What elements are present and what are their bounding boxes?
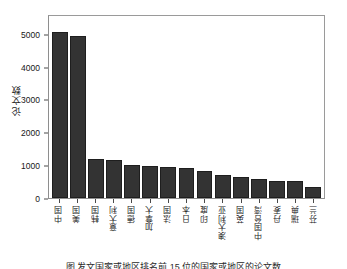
x-tick-mark xyxy=(59,199,60,203)
x-tick-label: 德国 xyxy=(128,206,136,223)
x-tick-mark xyxy=(168,199,169,203)
y-axis-ticks: 010002000300040005000 xyxy=(0,0,48,210)
bar xyxy=(287,181,303,198)
x-tick-mark xyxy=(150,199,151,203)
x-tick: 芬兰 xyxy=(306,199,322,269)
x-tick: 丹麦 xyxy=(270,199,286,269)
x-tick-label: 法国 xyxy=(164,206,172,223)
x-axis-ticks: 中国美国韩国意大利德国加拿大法国日本印度澳大利亚英国中国台湾丹麦瑞典芬兰 xyxy=(48,199,325,269)
x-tick-label: 印度 xyxy=(201,206,209,223)
bar xyxy=(197,171,213,198)
x-tick-mark xyxy=(241,199,242,203)
y-tick-label: 4000 xyxy=(21,63,40,73)
x-tick-label: 意大利 xyxy=(110,206,118,231)
plot-area xyxy=(48,15,325,199)
y-tick-label: 0 xyxy=(35,194,40,204)
bar xyxy=(106,160,122,198)
bar xyxy=(160,167,176,198)
bar xyxy=(269,181,285,198)
x-tick-label: 日本 xyxy=(183,206,191,223)
x-tick-label: 英国 xyxy=(237,206,245,223)
x-tick: 德国 xyxy=(124,199,140,269)
x-tick: 中国 xyxy=(51,199,67,269)
y-tick-label: 3000 xyxy=(21,95,40,105)
x-tick-label: 美国 xyxy=(73,206,81,223)
x-tick: 印度 xyxy=(197,199,213,269)
x-tick-mark xyxy=(277,199,278,203)
y-tick-label: 5000 xyxy=(21,30,40,40)
bar xyxy=(70,36,86,198)
x-tick-label: 中国台湾 xyxy=(255,206,263,240)
y-tick-label: 2000 xyxy=(21,128,40,138)
bar-chart-figure: 论文数 010002000300040005000 中国美国韩国意大利德国加拿大… xyxy=(0,0,347,269)
x-tick-mark xyxy=(131,199,132,203)
bar xyxy=(142,166,158,198)
x-tick-mark xyxy=(295,199,296,203)
x-tick: 美国 xyxy=(69,199,85,269)
x-tick-mark xyxy=(113,199,114,203)
x-tick-label: 韩国 xyxy=(92,206,100,223)
x-tick-label: 瑞典 xyxy=(292,206,300,223)
x-tick-mark xyxy=(259,199,260,203)
bar-series xyxy=(49,16,324,198)
x-tick: 加拿大 xyxy=(142,199,158,269)
x-tick: 意大利 xyxy=(106,199,122,269)
x-tick: 韩国 xyxy=(88,199,104,269)
figure-caption-text: 图 发文国家或地区排名前 15 位的国家或地区的论文数 xyxy=(0,262,347,269)
bar xyxy=(124,165,140,198)
x-tick: 瑞典 xyxy=(288,199,304,269)
figure-caption: 图 发文国家或地区排名前 15 位的国家或地区的论文数 xyxy=(0,262,347,269)
bar xyxy=(52,32,68,198)
bar xyxy=(179,168,195,198)
x-tick-mark xyxy=(313,199,314,203)
bar xyxy=(233,177,249,198)
x-tick-mark xyxy=(95,199,96,203)
x-tick-label: 中国 xyxy=(55,206,63,223)
x-tick-label: 丹麦 xyxy=(274,206,282,223)
bar xyxy=(215,175,231,198)
bar xyxy=(251,179,267,199)
x-tick: 中国台湾 xyxy=(251,199,267,269)
x-tick-mark xyxy=(204,199,205,203)
x-tick-label: 澳大利亚 xyxy=(219,206,227,240)
x-tick-mark xyxy=(222,199,223,203)
x-tick: 澳大利亚 xyxy=(215,199,231,269)
x-tick: 法国 xyxy=(160,199,176,269)
x-tick-label: 芬兰 xyxy=(310,206,318,223)
x-tick: 英国 xyxy=(233,199,249,269)
x-tick: 日本 xyxy=(179,199,195,269)
y-tick-label: 1000 xyxy=(21,161,40,171)
bar xyxy=(305,187,321,198)
x-tick-mark xyxy=(77,199,78,203)
bar xyxy=(88,159,104,198)
x-tick-mark xyxy=(186,199,187,203)
x-tick-label: 加拿大 xyxy=(146,206,154,231)
